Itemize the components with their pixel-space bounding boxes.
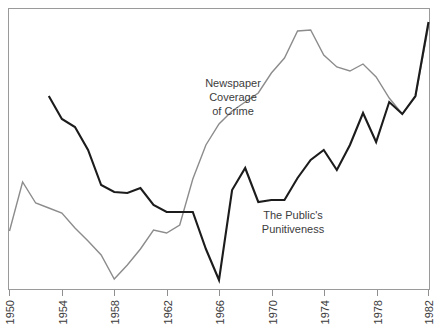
tick-label-1962: 1962 bbox=[162, 300, 174, 324]
newspaper-label-line1: Newspaper bbox=[205, 77, 261, 89]
tick-label-1970: 1970 bbox=[267, 300, 279, 324]
newspaper-coverage-annotation: Newspaper Coverage of Crime bbox=[205, 77, 261, 117]
chart-canvas: 1950 1954 1958 1962 1966 1970 1974 1978 … bbox=[0, 0, 438, 329]
tick-label-1954: 1954 bbox=[57, 300, 69, 324]
tick-label-1978: 1978 bbox=[372, 300, 384, 324]
tick-label-1958: 1958 bbox=[109, 300, 121, 324]
tick-label-1950: 1950 bbox=[4, 300, 16, 324]
punitiveness-label-line1: The Public's bbox=[263, 209, 323, 221]
tick-label-1974: 1974 bbox=[319, 300, 331, 324]
punitiveness-label-line2: Punitiveness bbox=[262, 223, 325, 235]
newspaper-label-line2: Coverage bbox=[209, 91, 257, 103]
tick-label-1966: 1966 bbox=[214, 300, 226, 324]
crime-coverage-line-chart: 1950 1954 1958 1962 1966 1970 1974 1978 … bbox=[0, 0, 438, 329]
tick-label-1982: 1982 bbox=[423, 300, 435, 324]
newspaper-label-line3: of Crime bbox=[212, 105, 254, 117]
